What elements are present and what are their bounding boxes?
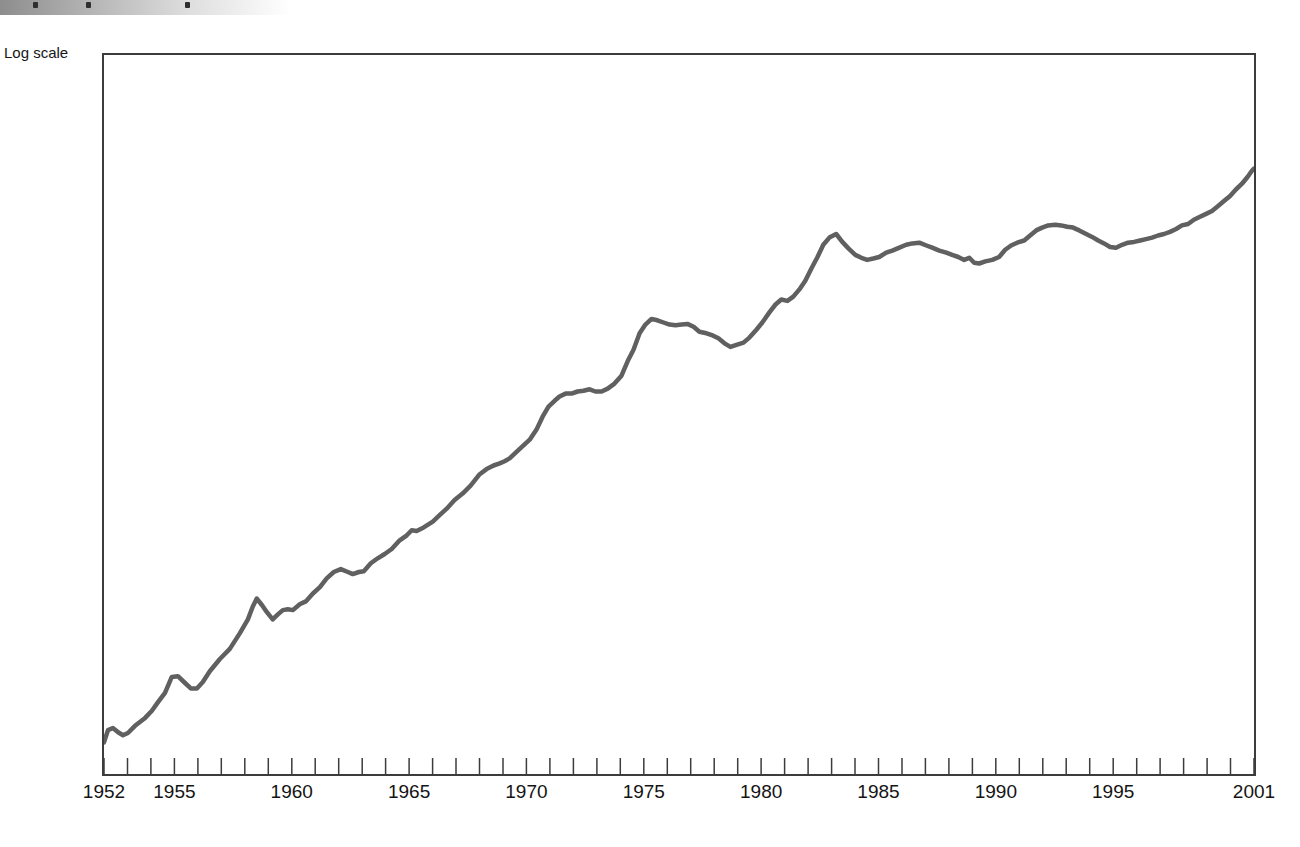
y-axis-title: Log scale — [4, 44, 68, 61]
x-axis-label: 1975 — [623, 781, 665, 803]
plot-area — [102, 53, 1256, 776]
x-axis-labels: 1952195519601965197019751980198519901995… — [0, 781, 1300, 805]
x-axis-label: 2001 — [1233, 781, 1275, 803]
x-axis-label: 1985 — [857, 781, 899, 803]
x-axis-label: 1980 — [740, 781, 782, 803]
trend-line-series — [104, 169, 1254, 743]
line-chart-canvas — [104, 55, 1254, 774]
cropped-text-fragment — [185, 2, 190, 8]
cropped-text-fragment — [86, 2, 91, 8]
x-axis-label: 1990 — [975, 781, 1017, 803]
figure-page: Log scale 195219551960196519701975198019… — [0, 0, 1300, 847]
x-axis-label: 1960 — [271, 781, 313, 803]
cropped-text-fragment — [33, 2, 38, 8]
x-axis-label: 1952 — [83, 781, 125, 803]
x-axis-label: 1965 — [388, 781, 430, 803]
x-axis-label: 1995 — [1092, 781, 1134, 803]
x-axis-ticks — [104, 758, 1254, 774]
x-axis-label: 1970 — [505, 781, 547, 803]
cropped-header-band — [0, 0, 290, 15]
x-axis-label: 1955 — [153, 781, 195, 803]
